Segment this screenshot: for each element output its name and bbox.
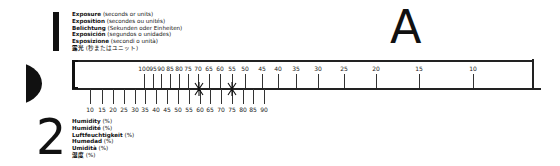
exposure-legend: Exposure (seconds or units) Exposition (… — [72, 11, 182, 52]
section-1-number — [53, 12, 59, 51]
exposure-tick-label: 75 — [184, 66, 192, 72]
alignment-marker-icon — [227, 81, 237, 95]
humidity-tick — [124, 89, 125, 104]
humidity-tick — [221, 89, 222, 104]
humidity-tick — [210, 89, 211, 104]
alignment-marker-icon — [194, 81, 204, 95]
humidity-tick-label: 55 — [185, 107, 193, 113]
humidity-tick-label: 35 — [141, 107, 149, 113]
exposure-tick — [262, 74, 263, 88]
scale-bar-top-edge — [72, 60, 534, 62]
exposure-tick — [161, 74, 162, 88]
humidity-tick — [135, 89, 136, 104]
exposure-tick — [170, 74, 171, 88]
legend-row: Humedad (%) — [72, 138, 134, 145]
exposure-tick — [153, 74, 154, 88]
exposure-tick — [344, 74, 345, 88]
exposure-tick — [278, 74, 279, 88]
exposure-tick — [144, 74, 145, 88]
exposure-tick-label: 10 — [469, 66, 477, 72]
exposure-tick — [179, 74, 180, 88]
humidity-tick — [253, 89, 254, 104]
humidity-tick-label: 60 — [196, 107, 204, 113]
exposure-tick-label: 70 — [194, 66, 202, 72]
humidity-tick-label: 85 — [249, 107, 257, 113]
exposure-tick-label: 15 — [415, 66, 423, 72]
exposure-tick-label: 55 — [228, 66, 236, 72]
exposure-tick-label: 40 — [274, 66, 282, 72]
scale-bar-left-bracket — [72, 60, 78, 89]
exposure-tick — [245, 74, 246, 88]
legend-row: Humidity (%) — [72, 118, 134, 125]
scale-label-a: A — [390, 4, 421, 50]
exposure-tick-label: 20 — [372, 66, 380, 72]
exposure-tick-label: 100 — [138, 66, 149, 72]
exposure-tick-label: 80 — [175, 66, 183, 72]
exposure-tick-label: 95 — [149, 66, 157, 72]
dial-half-disc — [0, 62, 42, 105]
exposure-tick — [296, 74, 297, 88]
exposure-tick — [376, 74, 377, 88]
humidity-tick-label: 80 — [239, 107, 247, 113]
exposure-tick-label: 60 — [216, 66, 224, 72]
legend-row: 湿度 (%) — [72, 152, 134, 159]
exposure-tick — [473, 74, 474, 88]
exposure-tick-label: 25 — [340, 66, 348, 72]
humidity-tick-label: 25 — [120, 107, 128, 113]
humidity-tick — [90, 89, 91, 104]
legend-row: Exposition (secondes ou unités) — [72, 18, 182, 25]
humidity-tick — [243, 89, 244, 104]
legend-row: 露光 (秒またはユニット) — [72, 45, 182, 52]
exposure-tick-label: 65 — [205, 66, 213, 72]
humidity-tick-label: 90 — [260, 107, 268, 113]
exposure-tick — [209, 74, 210, 88]
exposure-tick — [220, 74, 221, 88]
humidity-tick-label: 15 — [98, 107, 106, 113]
exposure-tick — [419, 74, 420, 88]
legend-row: Luftfeuchtigkeit (%) — [72, 132, 134, 139]
legend-row: Esposizione (secondi o unità) — [72, 38, 182, 45]
legend-row: Belichtung (Sekunden oder Einheiten) — [72, 25, 182, 32]
humidity-tick-label: 10 — [86, 107, 94, 113]
legend-row: Exposición (segundos o unidades) — [72, 31, 182, 38]
humidity-tick-label: 30 — [131, 107, 139, 113]
humidity-tick-label: 50 — [174, 107, 182, 113]
legend-row: Exposure (seconds or units) — [72, 11, 182, 18]
humidity-legend: Humidity (%) Humidité (%) Luftfeuchtigke… — [72, 118, 134, 159]
scale-bar-right-edge — [532, 59, 534, 89]
scale-bar-bottom-edge — [72, 88, 541, 90]
humidity-tick — [264, 89, 265, 104]
humidity-tick-label: 20 — [109, 107, 117, 113]
humidity-tick — [167, 89, 168, 104]
humidity-tick-label: 75 — [228, 107, 236, 113]
exposure-tick-label: 30 — [314, 66, 322, 72]
humidity-tick — [102, 89, 103, 104]
section-2-number: 2 — [36, 112, 66, 162]
humidity-tick — [156, 89, 157, 104]
legend-row: Humidité (%) — [72, 125, 134, 132]
exposure-tick-label: 85 — [166, 66, 174, 72]
humidity-tick-label: 70 — [217, 107, 225, 113]
legend-row: Umidità (%) — [72, 145, 134, 152]
exposure-tick-label: 50 — [241, 66, 249, 72]
humidity-tick — [178, 89, 179, 104]
humidity-tick — [113, 89, 114, 104]
humidity-tick-label: 45 — [163, 107, 171, 113]
humidity-tick-label: 40 — [152, 107, 160, 113]
exposure-tick-label: 90 — [157, 66, 165, 72]
exposure-tick — [318, 74, 319, 88]
exposure-tick — [188, 74, 189, 88]
exposure-tick-label: 35 — [292, 66, 300, 72]
exposure-tick-label: 45 — [258, 66, 266, 72]
humidity-tick-label: 65 — [206, 107, 214, 113]
humidity-tick — [145, 89, 146, 104]
humidity-tick — [189, 89, 190, 104]
